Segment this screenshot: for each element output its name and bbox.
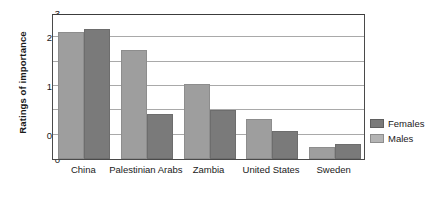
chart-legend: FemalesMales	[370, 118, 440, 148]
bar-females-china	[84, 29, 110, 159]
bar-females-zambia	[210, 110, 236, 159]
bar-females-united-states	[272, 131, 298, 159]
plot-area	[52, 14, 365, 160]
bar-females-palestinian-arabs	[147, 114, 173, 159]
bars-layer	[53, 15, 364, 159]
legend-item-males[interactable]: Males	[370, 133, 440, 144]
legend-item-females[interactable]: Females	[370, 118, 440, 129]
bar-males-sweden	[309, 147, 335, 159]
x-axis-category-label: Sweden	[289, 164, 379, 176]
bar-males-united-states	[246, 119, 272, 159]
legend-label: Males	[388, 133, 413, 144]
bar-chart: Ratings of importance 00.511.522.53 Chin…	[0, 0, 442, 202]
legend-label: Females	[388, 118, 424, 129]
legend-swatch-females-icon	[370, 119, 384, 128]
bar-males-palestinian-arabs	[121, 50, 147, 160]
bar-females-sweden	[335, 144, 361, 159]
bar-males-zambia	[184, 84, 210, 159]
legend-swatch-males-icon	[370, 134, 384, 143]
bar-males-china	[58, 32, 84, 159]
